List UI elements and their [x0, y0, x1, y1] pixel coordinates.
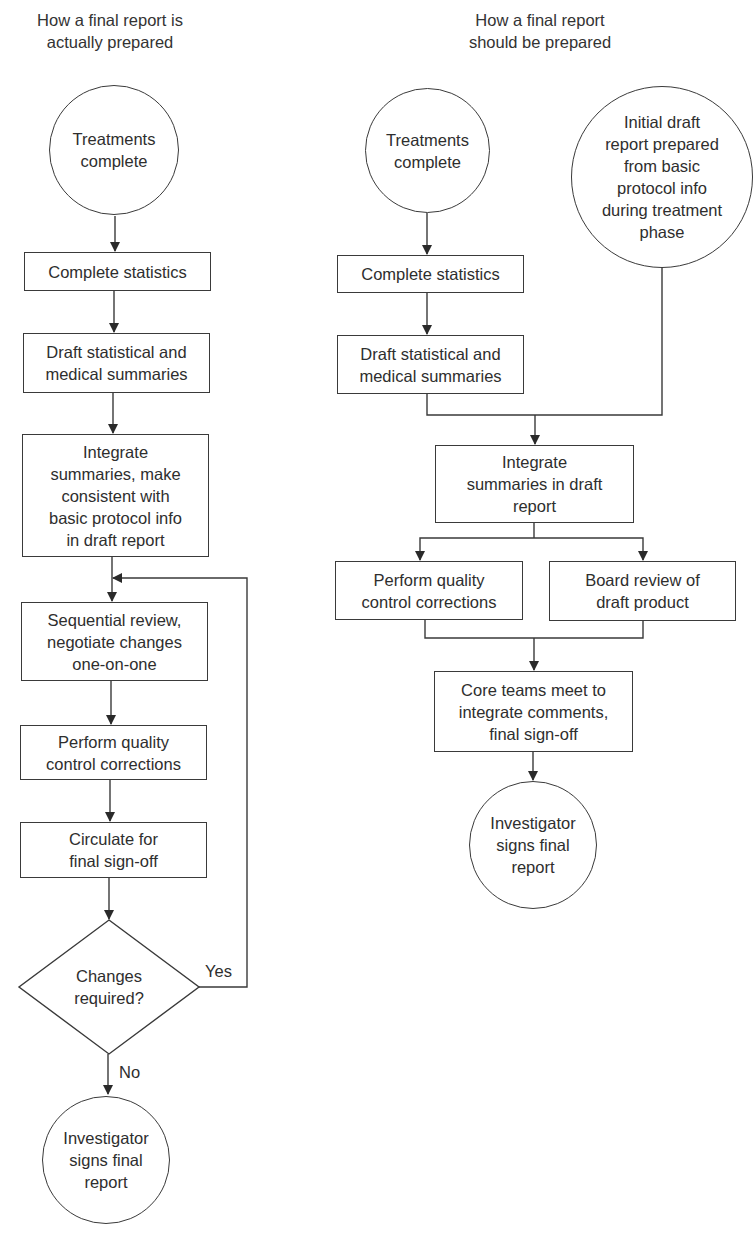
right-node-treatments-complete: Treatments complete	[365, 88, 490, 213]
left-node-complete-statistics: Complete statistics	[24, 252, 211, 291]
right-node-core-teams: Core teams meet to integrate comments, f…	[434, 671, 633, 752]
left-node-investigator-signs: Investigator signs final report	[42, 1096, 170, 1224]
left-node-circulate-label: Circulate for final sign-off	[69, 828, 158, 872]
right-flow-title: How a final report should be prepared	[445, 9, 635, 53]
left-node-changes-required-label: Changes required?	[74, 965, 144, 1009]
left-node-sequential-review: Sequential review, negotiate changes one…	[21, 602, 208, 681]
edge-label-yes: Yes	[205, 962, 232, 981]
r-split-right	[534, 538, 643, 560]
left-node-treatments-complete-label: Treatments complete	[73, 128, 156, 172]
right-node-board-review-label: Board review of draft product	[585, 569, 700, 613]
left-node-draft-summaries-label: Draft statistical and medical summaries	[45, 341, 187, 385]
r-split-left	[420, 538, 534, 560]
left-node-draft-summaries: Draft statistical and medical summaries	[23, 333, 210, 393]
right-node-board-review: Board review of draft product	[549, 561, 736, 621]
right-node-complete-statistics-label: Complete statistics	[361, 263, 499, 285]
right-node-investigator-signs-label: Investigator signs final report	[490, 812, 575, 878]
right-node-quality-control: Perform quality control corrections	[335, 561, 523, 620]
right-node-draft-summaries: Draft statistical and medical summaries	[337, 335, 524, 394]
left-flow-title: How a final report is actually prepared	[20, 9, 200, 53]
right-node-initial-draft-label: Initial draft report prepared from basic…	[602, 111, 722, 243]
right-node-integrate-summaries: Integrate summaries in draft report	[435, 445, 634, 523]
left-node-investigator-signs-label: Investigator signs final report	[63, 1127, 148, 1193]
left-node-circulate: Circulate for final sign-off	[20, 822, 207, 878]
left-node-integrate-summaries-label: Integrate summaries, make consistent wit…	[49, 441, 182, 551]
right-node-quality-control-label: Perform quality control corrections	[362, 569, 497, 613]
right-node-draft-summaries-label: Draft statistical and medical summaries	[359, 343, 501, 387]
left-node-quality-control: Perform quality control corrections	[20, 725, 207, 780]
left-node-changes-required: Changes required?	[49, 960, 169, 1014]
right-node-treatments-complete-label: Treatments complete	[386, 129, 469, 173]
edge-label-no: No	[119, 1063, 140, 1082]
left-node-sequential-review-label: Sequential review, negotiate changes one…	[47, 609, 182, 675]
right-node-integrate-summaries-label: Integrate summaries in draft report	[467, 451, 603, 517]
right-node-investigator-signs: Investigator signs final report	[469, 781, 597, 909]
r-merge-qc-board	[425, 620, 643, 638]
right-node-core-teams-label: Core teams meet to integrate comments, f…	[459, 679, 608, 745]
left-node-complete-statistics-label: Complete statistics	[48, 261, 186, 283]
right-node-initial-draft: Initial draft report prepared from basic…	[571, 86, 753, 268]
left-node-integrate-summaries: Integrate summaries, make consistent wit…	[22, 434, 209, 557]
left-node-quality-control-label: Perform quality control corrections	[46, 731, 181, 775]
left-node-treatments-complete: Treatments complete	[49, 85, 179, 215]
right-node-complete-statistics: Complete statistics	[337, 255, 524, 293]
